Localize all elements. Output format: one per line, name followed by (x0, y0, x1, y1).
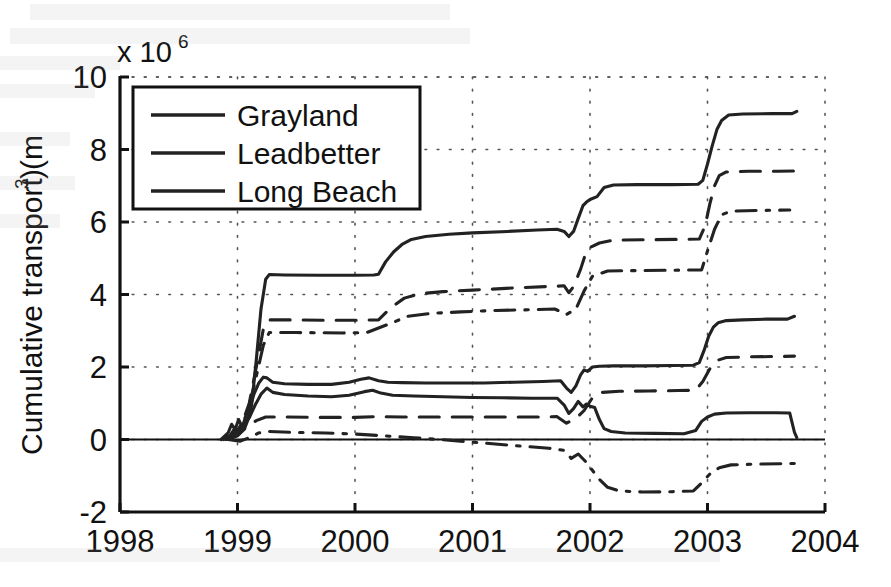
chart-legend[interactable]: GraylandLeadbetterLong Beach (133, 87, 420, 209)
figure-chart: x 10 6 Cumulative transport (m 3 ) -2024… (0, 0, 891, 587)
y-axis-title-end: ) (15, 169, 48, 179)
y-tick-label: 10 (73, 60, 107, 95)
data-series-line (228, 432, 794, 493)
y-tick-label: 6 (90, 205, 107, 240)
x-tick-label: 1998 (86, 524, 155, 559)
x-tick-label: 1999 (203, 524, 272, 559)
data-series-line (223, 388, 796, 439)
exponent-prefix: x 10 (117, 36, 172, 68)
x-tick-label: 2001 (438, 524, 507, 559)
data-series-line (221, 316, 794, 439)
data-series-line (226, 210, 790, 439)
legend-label-leadbetter: Leadbetter (237, 137, 380, 170)
x-tick-label: 2004 (791, 524, 860, 559)
chart-svg: x 10 6 Cumulative transport (m 3 ) -2024… (0, 0, 891, 587)
x-tick-label: 2000 (321, 524, 390, 559)
legend-label-grayland: Grayland (237, 99, 359, 132)
legend-label-long-beach: Long Beach (237, 175, 397, 208)
exponent-label: x 10 6 (117, 31, 189, 68)
y-axis-title: Cumulative transport (m 3 ) (11, 135, 48, 455)
x-tick-label: 2002 (556, 524, 625, 559)
y-tick-label: 2 (90, 350, 107, 385)
y-axis-title-superscript: 3 (11, 178, 32, 189)
y-tick-label: 0 (90, 423, 107, 458)
x-tick-label: 2003 (673, 524, 742, 559)
y-tick-label: 8 (90, 133, 107, 168)
y-tick-label: 4 (90, 278, 107, 313)
exponent-power: 6 (178, 31, 189, 52)
